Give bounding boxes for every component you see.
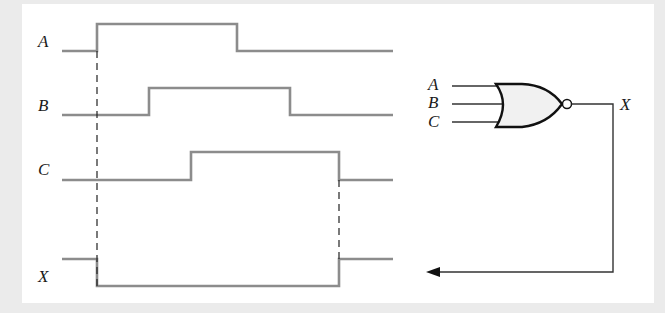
diagram-canvas: A B C X A B C X <box>0 0 665 313</box>
signal-label-c: C <box>38 160 50 179</box>
gate-output-label: X <box>619 95 631 114</box>
waveform-b <box>62 88 393 115</box>
feedback-arrowhead <box>426 267 440 277</box>
waveform-x <box>62 259 393 286</box>
gate-input-label-c: C <box>428 112 440 131</box>
signal-label-a: A <box>37 32 49 51</box>
signal-label-x: X <box>37 267 49 286</box>
gate-input-label-a: A <box>427 75 439 94</box>
waveform-a <box>62 24 393 51</box>
nor-gate-inversion-bubble <box>563 100 572 109</box>
waveform-c <box>62 152 393 180</box>
gate-output-wire <box>436 104 613 272</box>
signal-label-b: B <box>38 96 49 115</box>
gate-input-label-b: B <box>428 93 439 112</box>
nor-gate-body <box>496 84 562 127</box>
